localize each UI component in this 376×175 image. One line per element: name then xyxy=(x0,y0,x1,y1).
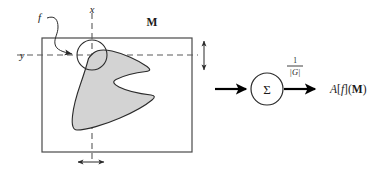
output-expression: A[f](M) xyxy=(329,83,367,96)
scale-denominator: |G| xyxy=(290,67,301,77)
y-axis-label: y xyxy=(19,50,25,61)
diagram-svg: f M x y Σ 1 |G| A[f](M) xyxy=(0,0,376,175)
domain-label: M xyxy=(147,16,158,28)
shape-blob xyxy=(72,50,154,130)
input-arrow xyxy=(47,17,72,54)
scale-numerator: 1 xyxy=(293,56,297,65)
x-axis-label: x xyxy=(89,4,95,15)
figure-canvas: f M x y Σ 1 |G| A[f](M) xyxy=(0,0,376,175)
output-paren-close: ) xyxy=(363,83,367,96)
sigma-symbol: Σ xyxy=(263,82,271,97)
input-function-label: f xyxy=(38,11,43,23)
output-domain: M xyxy=(352,83,363,95)
